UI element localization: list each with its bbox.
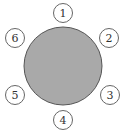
seat-1: 1: [54, 4, 73, 23]
seat-label: 6: [12, 32, 19, 45]
seat-5: 5: [6, 86, 25, 105]
seat-label: 1: [60, 7, 67, 20]
seat-6: 6: [6, 29, 25, 48]
seat-2: 2: [100, 29, 119, 48]
seating-diagram: 1 2 3 4 5 6: [0, 0, 124, 134]
seat-4: 4: [54, 111, 73, 130]
seat-label: 5: [12, 89, 19, 102]
seat-label: 2: [106, 32, 113, 45]
round-table: [24, 27, 102, 105]
seat-label: 4: [60, 114, 67, 127]
seat-3: 3: [101, 86, 120, 105]
seat-label: 3: [107, 89, 114, 102]
